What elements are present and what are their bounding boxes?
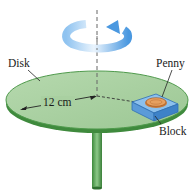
radius-label: 12 cm bbox=[43, 96, 71, 108]
disk-callout: Disk bbox=[8, 57, 40, 81]
rotating-disk-diagram: 12 cm Disk Penny Block bbox=[0, 0, 196, 194]
disk-label: Disk bbox=[8, 57, 30, 69]
block-label: Block bbox=[159, 125, 187, 137]
penny bbox=[145, 98, 167, 108]
penny-label: Penny bbox=[156, 57, 185, 70]
